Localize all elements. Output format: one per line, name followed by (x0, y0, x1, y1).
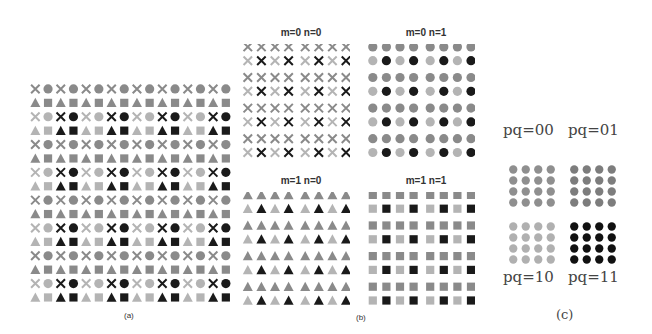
circle-icon (120, 84, 129, 93)
square-icon (120, 99, 128, 107)
triangle-icon (56, 209, 66, 218)
circle-icon (595, 255, 603, 263)
circle-icon (608, 165, 616, 173)
pq00-dot-grid (507, 164, 557, 208)
triangle-icon (81, 265, 91, 274)
circle-icon (608, 222, 616, 230)
x-icon (271, 56, 280, 64)
circle-icon (368, 73, 377, 82)
circle-icon (120, 251, 129, 260)
square-icon (396, 192, 404, 199)
x-icon (315, 73, 324, 82)
x-icon (244, 73, 253, 82)
square-icon (69, 210, 77, 218)
square-icon (69, 127, 77, 135)
triangle-icon (56, 237, 66, 246)
circle-icon (534, 187, 542, 195)
x-icon (244, 134, 253, 143)
circle-icon (509, 244, 517, 252)
circle-icon (409, 117, 418, 126)
x-icon (209, 196, 218, 205)
x-icon (342, 118, 350, 127)
triangle-icon (314, 265, 324, 274)
triangle-icon (30, 292, 40, 301)
square-icon (222, 210, 230, 218)
circle-icon (453, 87, 462, 96)
circle-icon (43, 112, 52, 121)
square-icon (426, 283, 434, 291)
square-icon (369, 235, 377, 243)
circle-icon (409, 44, 418, 52)
circle-icon (170, 223, 179, 232)
circle-icon (608, 233, 616, 241)
triangle-icon (107, 265, 117, 274)
square-icon (440, 283, 448, 291)
square-icon (146, 266, 154, 274)
circle-icon (145, 196, 154, 205)
square-icon (222, 182, 230, 190)
triangle-icon (107, 209, 117, 218)
square-icon (222, 266, 230, 274)
circle-icon (583, 165, 591, 173)
x-icon (57, 252, 66, 261)
square-icon (171, 238, 179, 246)
triangle-icon (300, 204, 310, 213)
circle-icon (426, 56, 435, 65)
circle-icon (439, 148, 448, 157)
square-icon (440, 221, 448, 229)
x-icon (133, 85, 142, 94)
x-icon (257, 73, 266, 82)
triangle-icon (107, 126, 117, 135)
circle-icon (409, 56, 418, 65)
circle-icon (466, 104, 474, 113)
triangle-icon (183, 98, 193, 107)
square-icon (196, 266, 204, 274)
triangle-icon (208, 265, 218, 274)
triangle-icon (107, 98, 117, 107)
x-icon (315, 134, 324, 143)
circle-icon (466, 148, 474, 157)
x-icon (31, 113, 39, 122)
triangle-icon (284, 234, 294, 243)
triangle-icon (243, 234, 253, 243)
circle-icon (221, 196, 230, 205)
square-icon (382, 235, 390, 243)
pq-label-11: pq=11 (568, 268, 619, 286)
x-icon (57, 196, 66, 205)
subpanel-title-m1n1: m=1 n=1 (393, 175, 459, 186)
x-icon (257, 118, 266, 127)
circle-icon (120, 168, 129, 177)
triangle-icon (327, 234, 337, 243)
circle-icon (453, 134, 462, 143)
circle-icon (509, 187, 517, 195)
circle-icon (395, 73, 404, 82)
circle-icon (395, 56, 404, 65)
circle-icon (145, 112, 154, 121)
triangle-icon (300, 296, 310, 305)
triangle-icon (30, 181, 40, 190)
x-icon (284, 56, 293, 64)
square-icon (426, 235, 434, 243)
triangle-icon (208, 292, 218, 301)
triangle-icon (270, 265, 280, 274)
x-icon (133, 224, 142, 233)
triangle-icon (270, 282, 280, 291)
circle-icon (522, 187, 530, 195)
x-icon (107, 113, 116, 122)
triangle-icon (56, 98, 66, 107)
square-icon (453, 205, 461, 213)
x-icon (57, 113, 66, 122)
circle-icon (570, 176, 578, 184)
circle-icon (453, 148, 462, 157)
triangle-icon (157, 237, 167, 246)
triangle-icon (208, 209, 218, 218)
circle-icon (382, 44, 391, 52)
x-icon (82, 224, 91, 233)
square-icon (369, 192, 377, 199)
square-icon (171, 182, 179, 190)
x-icon (57, 140, 66, 149)
circle-icon (368, 104, 377, 113)
circle-icon (570, 165, 578, 173)
x-icon (82, 85, 91, 94)
x-icon (57, 279, 66, 288)
